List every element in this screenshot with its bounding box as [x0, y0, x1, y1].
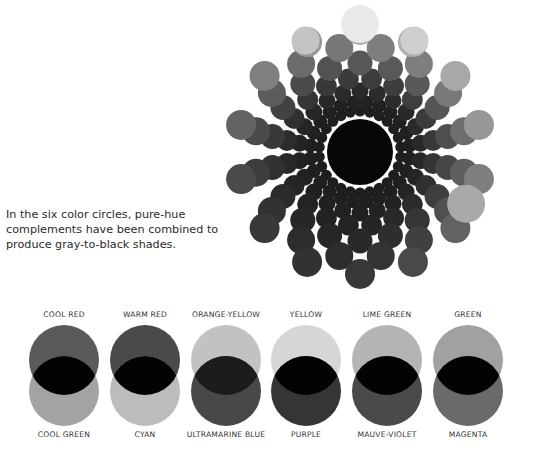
ring-circle [345, 259, 375, 289]
highlight-circle [292, 27, 320, 55]
ring-circle [398, 247, 428, 277]
overlapping-circles [103, 324, 187, 428]
ring-circle [226, 164, 256, 194]
core-circle [327, 119, 393, 185]
highlight-circle [447, 185, 485, 223]
overlapping-circles [264, 324, 348, 428]
ring-circle [226, 110, 256, 140]
overlapping-circles [345, 324, 429, 428]
color-circle-mandala [0, 0, 542, 300]
highlight-circle [400, 27, 428, 55]
overlapping-circles [426, 324, 510, 428]
top-hue-label: GREEN [406, 310, 530, 319]
bottom-hue-label: MAGENTA [406, 430, 530, 439]
caption-line: produce gray-to-black shades. [6, 237, 206, 252]
overlapping-circles [22, 324, 106, 428]
highlight-circle [341, 5, 379, 43]
complement-pair: GREEN MAGENTA [426, 308, 510, 458]
overlapping-circles [184, 324, 268, 428]
caption-line: complements have been combined to [6, 222, 206, 237]
ring-circle [440, 61, 470, 91]
caption: In the six color circles, pure-hue compl… [6, 207, 206, 252]
caption-line: In the six color circles, pure-hue [6, 207, 206, 222]
ring-circle [292, 247, 322, 277]
ring-circle [250, 213, 280, 243]
ring-circle [464, 110, 494, 140]
ring-circle [250, 61, 280, 91]
